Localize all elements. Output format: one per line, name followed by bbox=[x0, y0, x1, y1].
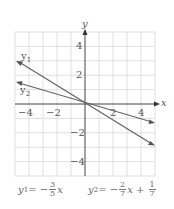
fraction: 17 bbox=[149, 181, 156, 198]
tick-y-neg2: −2 bbox=[70, 127, 85, 138]
arrow-y2-right-icon bbox=[149, 120, 156, 125]
line-label-y1: y1 bbox=[21, 50, 31, 64]
tick-y-neg4: −4 bbox=[70, 156, 85, 167]
coordinate-plane bbox=[0, 0, 174, 209]
tick-y-2: 2 bbox=[76, 69, 82, 80]
tick-x-neg2: −2 bbox=[46, 107, 61, 118]
line-label-y2: y2 bbox=[20, 84, 30, 98]
tick-y-4: 4 bbox=[76, 40, 82, 51]
fraction: 35 bbox=[49, 181, 56, 198]
equation-y1: y1 = − 35 x bbox=[18, 181, 63, 198]
y-axis-label: y bbox=[82, 18, 88, 29]
tick-x-neg4: −4 bbox=[18, 107, 33, 118]
x-axis-arrow-icon bbox=[154, 102, 160, 107]
tick-x-4: 4 bbox=[138, 107, 144, 118]
x-axis-label: x bbox=[161, 97, 167, 108]
tick-x-2: 2 bbox=[110, 107, 116, 118]
fraction: 27 bbox=[119, 181, 126, 198]
equation-y2: y2 = − 27 x + 17 bbox=[88, 181, 157, 198]
